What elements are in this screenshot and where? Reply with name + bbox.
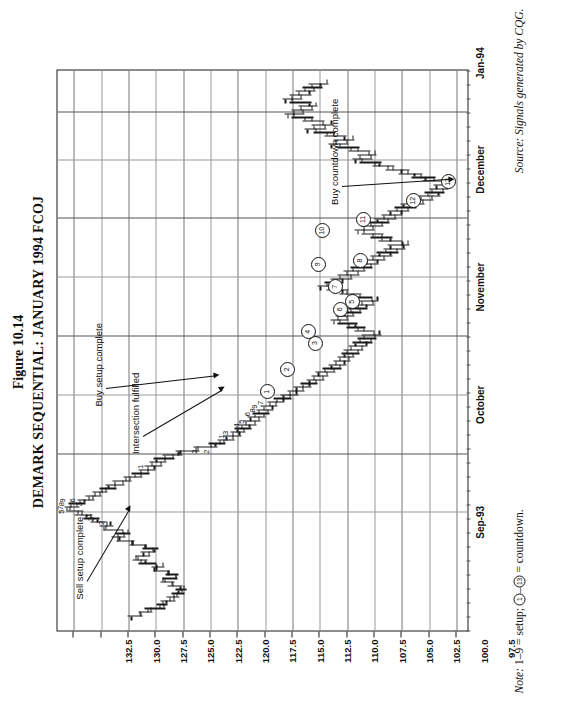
annotation-leader-buy-countdown-complete [341,179,450,187]
date-tick-mark [466,210,470,211]
ohlc-open-tick [169,597,170,601]
ohlc-open-tick [177,451,178,455]
ohlc-open-tick [311,84,312,88]
setup-number-sell-2: 2 [96,520,105,524]
ohlc-open-tick [389,238,390,242]
date-tick-mark [466,112,470,113]
price-gridline [155,70,156,630]
ohlc-open-tick [210,444,211,448]
ohlc-open-tick [254,414,255,418]
ohlc-close-tick [315,102,316,106]
date-tick-mark [466,490,470,491]
date-tick-mark [466,182,470,183]
ohlc-open-tick [308,380,309,384]
ohlc-open-tick [172,582,173,586]
date-tick-mark [466,378,470,379]
ohlc-open-tick [337,316,338,320]
date-tick-mark [466,350,470,351]
ohlc-open-tick [389,245,390,249]
countdown-number-cd-9: 9 [311,256,326,271]
price-gridline [456,70,457,630]
ohlc-open-tick [140,470,141,474]
price-tick-mark [100,631,101,637]
ohlc-open-tick [350,346,351,350]
price-tick-mark [127,631,128,637]
setup-number-sell-alt-2: 2 [201,449,210,453]
ohlc-close-tick [378,330,379,334]
ohlc-open-tick [81,511,82,515]
ohlc-open-tick [219,440,220,444]
date-tick-mark [466,448,470,449]
note-prefix: Note: [512,667,524,693]
ohlc-open-tick [378,253,379,257]
date-tick-mark [466,630,470,631]
countdown-number-cd-6: 6 [333,301,348,316]
month-tick-label: November [474,262,485,311]
ohlc-open-tick [258,410,259,414]
date-tick-mark [466,266,470,267]
ohlc-open-tick [389,211,390,215]
ohlc-open-tick [131,541,132,545]
ohlc-close-tick [352,135,353,139]
ohlc-open-tick [291,95,292,99]
setup-number-buy-5: 5 [236,419,245,423]
ohlc-open-tick [179,586,180,590]
ohlc-open-tick [300,107,301,111]
ohlc-open-tick [420,174,421,178]
ohlc-open-tick [346,350,347,354]
countdown-number-cd-2: 2 [279,361,294,376]
ohlc-open-tick [106,522,107,526]
ohlc-open-tick [378,163,379,167]
countdown-number-cd-8: 8 [352,253,367,268]
ohlc-close-tick [407,240,408,244]
ohlc-open-tick [357,230,358,234]
ohlc-open-tick [376,219,377,223]
ohlc-open-tick [276,399,277,403]
ohlc-open-tick [363,226,364,230]
annotation-arrow-buy-countdown-complete [448,176,454,182]
setup-number-sell-alt-1: 1 [136,464,145,468]
ohlc-open-tick [392,166,393,170]
price-tick-mark [428,631,429,637]
ohlc-open-tick [159,605,160,609]
week-gridline [57,159,467,160]
date-tick-mark [466,336,470,337]
ohlc-open-tick [167,571,168,575]
ohlc-open-tick [103,526,104,530]
price-tick-mark [400,631,401,637]
date-tick-mark [466,70,470,71]
ohlc-open-tick [144,560,145,564]
ohlc-open-tick [147,466,148,470]
ohlc-open-tick [304,88,305,92]
ohlc-open-tick [343,354,344,358]
ohlc-open-tick [293,110,294,114]
countdown-number-cd-10: 10 [314,223,329,238]
price-tick-label: 120.0 [260,639,271,693]
countdown-number-cd-4: 4 [301,324,316,339]
ohlc-open-tick [175,575,176,579]
ohlc-open-tick [164,455,165,459]
price-tick-mark [264,631,265,637]
price-gridline [265,70,266,630]
ohlc-open-tick [381,234,382,238]
price-tick-mark [455,631,456,637]
ohlc-open-tick [354,159,355,163]
date-tick-mark [466,126,470,127]
ohlc-open-tick [385,249,386,253]
ohlc-open-tick [352,268,353,272]
ohlc-close-tick [183,585,184,589]
ohlc-open-tick [319,286,320,290]
ohlc-open-tick [322,121,323,125]
price-tick-label: 105.0 [424,639,435,693]
price-tick-mark [291,631,292,637]
price-gridline [319,70,320,630]
setup-number-buy-9: 9 [249,404,258,408]
ohlc-open-tick [289,391,290,395]
price-gridline [183,70,184,630]
ohlc-open-tick [354,324,355,328]
ohlc-open-tick [371,298,372,302]
ohlc-open-tick [130,616,131,620]
ohlc-open-tick [101,489,102,493]
source-text: Signals generated by CQG. [512,8,524,134]
annotation-sell-setup-complete: Sell setup complete [73,516,84,599]
